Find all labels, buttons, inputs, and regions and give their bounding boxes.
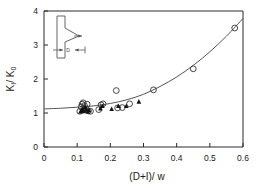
x-tick-label: 0 bbox=[42, 153, 47, 163]
y-tick-label: 2 bbox=[33, 74, 38, 84]
y-tick-label: 0 bbox=[33, 142, 38, 152]
chart-figure: 00.10.20.30.40.50.6 01234 D (D+I)/ w KI/… bbox=[0, 0, 266, 188]
x-tick-label: 0.4 bbox=[171, 153, 183, 163]
x-tick-label: 0.3 bbox=[138, 153, 150, 163]
y-tick-label: 3 bbox=[33, 40, 38, 50]
inset-dimension-label: D bbox=[66, 47, 70, 53]
figure-background bbox=[0, 0, 266, 188]
y-tick-label: 4 bbox=[33, 6, 38, 16]
x-tick-label: 0.1 bbox=[71, 153, 83, 163]
y-tick-label: 1 bbox=[33, 108, 38, 118]
x-tick-label: 0.2 bbox=[104, 153, 116, 163]
x-tick-label: 0.6 bbox=[237, 153, 249, 163]
x-axis-title: (D+I)/ w bbox=[129, 171, 165, 182]
x-tick-label: 0.5 bbox=[204, 153, 216, 163]
